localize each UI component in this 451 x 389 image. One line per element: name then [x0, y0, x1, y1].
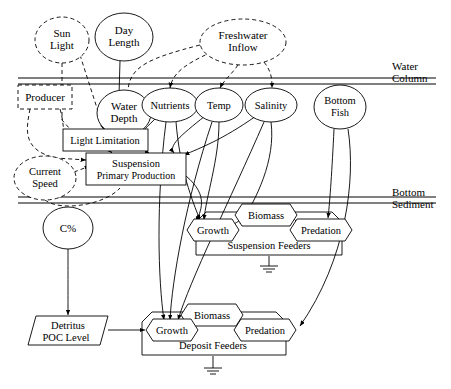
- predation-deposit-label: Predation: [245, 325, 286, 336]
- light-limitation-label: Light Limitation: [70, 135, 140, 146]
- node-salinity[interactable]: Salinity: [245, 88, 297, 122]
- c-percent-label: C%: [60, 222, 77, 234]
- node-freshwater-inflow[interactable]: Freshwater Inflow: [200, 19, 286, 65]
- node-sun-light[interactable]: Sun Light: [35, 17, 89, 63]
- freshwater-inflow-label-1: Freshwater: [219, 29, 268, 41]
- node-predation-deposit[interactable]: Predation: [234, 319, 296, 341]
- node-light-limitation[interactable]: Light Limitation: [63, 129, 148, 151]
- link-freshwater-to-temp: [220, 65, 238, 88]
- current-speed-label-1: Current: [29, 166, 61, 177]
- node-day-length[interactable]: Day Length: [95, 13, 153, 61]
- detritus-poc-level-label-1: Detritus: [51, 320, 85, 331]
- zone-label-water-column-line1: Water: [392, 60, 418, 72]
- zone-label-bottom-sediment: Bottom Sediment: [392, 186, 434, 210]
- temp-label: Temp: [207, 100, 231, 111]
- deposit-feeders-label: Deposit Feeders: [179, 340, 247, 351]
- biomass-suspension-label: Biomass: [248, 210, 284, 221]
- suspension-primary-production-label-2: Primary Production: [97, 170, 176, 181]
- node-current-speed[interactable]: Current Speed: [14, 156, 76, 200]
- node-suspension-primary-production[interactable]: Suspension Primary Production: [86, 153, 186, 185]
- node-detritus-poc-level[interactable]: Detritus POC Level: [28, 316, 108, 345]
- day-length-label-2: Length: [108, 36, 140, 48]
- zone-separator-sediment: [18, 197, 436, 203]
- bottom-fish-label-2: Fish: [331, 107, 350, 118]
- suspension-primary-production-label-1: Suspension: [112, 158, 161, 169]
- zone-label-bottom-sediment-line1: Bottom: [392, 186, 425, 198]
- link-temp-to-growth-suspension: [204, 122, 219, 220]
- detritus-poc-level-label-2: POC Level: [43, 332, 90, 343]
- node-growth-deposit[interactable]: Growth: [146, 319, 198, 341]
- diagram-canvas: Water Column Bottom Sediment: [0, 0, 451, 389]
- ground-symbol-deposit: [204, 368, 222, 374]
- link-freshwater-to-nutrients: [170, 52, 212, 88]
- link-bottom-fish-to-predation-suspension: [328, 129, 334, 218]
- node-producer[interactable]: Producer: [18, 85, 72, 109]
- growth-suspension-label: Growth: [197, 225, 230, 236]
- ground-symbol-suspension: [260, 266, 278, 272]
- predation-suspension-label: Predation: [301, 225, 342, 236]
- nutrients-label: Nutrients: [150, 100, 189, 111]
- freshwater-inflow-label-2: Inflow: [228, 41, 257, 53]
- growth-deposit-label: Growth: [156, 325, 189, 336]
- zone-label-bottom-sediment-line2: Sediment: [392, 198, 434, 210]
- suspension-feeders-label: Suspension Feeders: [227, 240, 310, 251]
- bottom-fish-label-1: Bottom: [324, 95, 356, 106]
- day-length-label-1: Day: [115, 24, 134, 36]
- node-c-percent[interactable]: C%: [43, 207, 93, 249]
- node-bottom-fish[interactable]: Bottom Fish: [314, 85, 366, 129]
- water-depth-label-1: Water: [111, 100, 137, 112]
- salinity-label: Salinity: [255, 100, 288, 111]
- water-depth-label-2: Depth: [111, 112, 138, 124]
- current-speed-label-2: Speed: [32, 178, 58, 189]
- node-nutrients[interactable]: Nutrients: [142, 88, 198, 122]
- zone-label-water-column-line2: Column: [392, 72, 428, 84]
- zone-label-water-column: Water Column: [392, 60, 428, 84]
- biomass-deposit-label: Biomass: [194, 310, 230, 321]
- node-biomass-suspension[interactable]: Biomass: [235, 204, 297, 226]
- sun-light-label-1: Sun: [53, 27, 71, 39]
- ecosystem-flow-diagram: Water Column Bottom Sediment: [0, 0, 451, 389]
- node-predation-suspension[interactable]: Predation: [290, 219, 352, 241]
- node-temp[interactable]: Temp: [195, 88, 243, 122]
- link-nutrients-to-growth-deposit: [159, 122, 166, 320]
- producer-label: Producer: [25, 91, 65, 103]
- sun-light-label-2: Light: [50, 39, 74, 51]
- node-growth-suspension[interactable]: Growth: [187, 219, 239, 241]
